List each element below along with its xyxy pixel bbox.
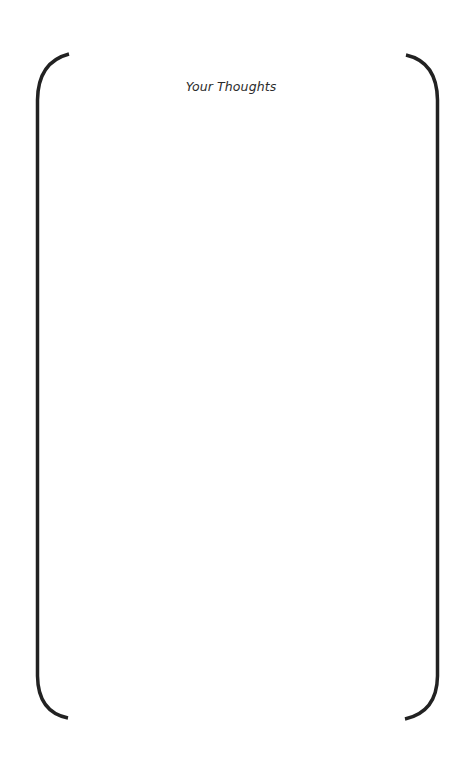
thoughts-writing-area[interactable] [44,110,430,710]
page-title: Your Thoughts [0,79,462,94]
journal-page: Your Thoughts [0,0,462,765]
